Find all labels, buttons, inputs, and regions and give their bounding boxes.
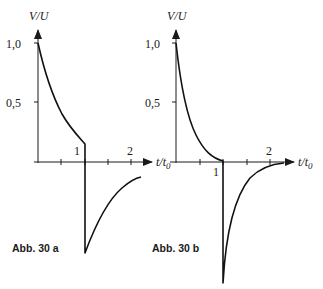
caption-b: Abb. 30 b	[152, 242, 199, 254]
y-axis-label-a: V/U	[29, 9, 50, 23]
x-axis-label-b: t/t0	[298, 155, 313, 171]
y-tick-label-05-b: 0,5	[145, 96, 160, 110]
response-curve-a	[38, 43, 141, 253]
y-tick-label-05-a: 0,5	[6, 96, 21, 110]
y-axis-label-b: V/U	[167, 9, 188, 23]
x-axis-label-a: t/t0	[156, 155, 171, 171]
x-tick-label-1-a: 1	[74, 144, 80, 158]
x-tick-label-2-b: 2	[266, 144, 272, 158]
diagram-canvas: V/U 1,0 0,5 1 2 Abb. 30 a V/U 1,0 0,5 1 …	[0, 0, 323, 289]
y-tick-label-1-a: 1,0	[6, 37, 21, 51]
x-tick-label-1-b: 1	[213, 165, 219, 179]
figure-30a: V/U 1,0 0,5 1 2 Abb. 30 a	[6, 9, 152, 254]
caption-a: Abb. 30 a	[12, 242, 59, 254]
figure-30b: V/U 1,0 0,5 1 2 Abb. 30 b	[145, 9, 294, 283]
y-tick-label-1-b: 1,0	[145, 37, 160, 51]
x-tick-label-2-a: 2	[127, 144, 133, 158]
